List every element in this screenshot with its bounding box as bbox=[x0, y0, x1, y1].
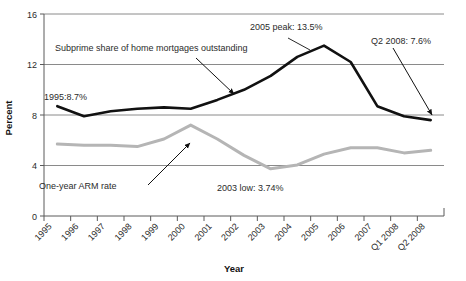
x-tick-labels: 1995199619971998199920002001200220032004… bbox=[33, 221, 428, 252]
x-tick-label-q2-2008: Q2 2008 bbox=[396, 221, 427, 252]
x-tick-label-2002: 2002 bbox=[219, 221, 240, 242]
x-tick-label-2006: 2006 bbox=[326, 221, 347, 242]
x-tick-label-2005: 2005 bbox=[299, 221, 320, 242]
x-tick-label-2004: 2004 bbox=[273, 221, 294, 242]
y-tick-label-12: 12 bbox=[27, 60, 37, 70]
x-axis-title: Year bbox=[224, 263, 244, 274]
peak-2005-label: 2005 peak: 13.5% bbox=[250, 22, 323, 32]
y-tick-label-0: 0 bbox=[32, 212, 37, 222]
x-tick-label-1995: 1995 bbox=[33, 221, 54, 242]
x-tick-label-2001: 2001 bbox=[193, 221, 214, 242]
x-tick-label-1996: 1996 bbox=[59, 221, 80, 242]
end-q2-2008-label: Q2 2008: 7.6% bbox=[371, 36, 431, 46]
arm-series-label: One-year ARM rate bbox=[39, 181, 117, 191]
x-tick-label-2007: 2007 bbox=[353, 221, 374, 242]
x-tick-label-1997: 1997 bbox=[86, 221, 107, 242]
y-tick-label-4: 4 bbox=[32, 161, 37, 171]
x-tick-label-1999: 1999 bbox=[139, 221, 160, 242]
x-ticks bbox=[44, 216, 417, 221]
x-tick-label-1998: 1998 bbox=[113, 221, 134, 242]
x-tick-label-2003: 2003 bbox=[246, 221, 267, 242]
y-tick-label-8: 8 bbox=[32, 111, 37, 121]
subprime-series-label: Subprime share of home mortgages outstan… bbox=[55, 43, 248, 53]
y-tick-label-16: 16 bbox=[27, 10, 37, 20]
low-2003-label: 2003 low: 3.74% bbox=[217, 183, 284, 193]
subprime-vs-arm-line-chart: 0481216 19951996199719981999200020012002… bbox=[0, 0, 466, 281]
start-1995-label: 1995:8.7% bbox=[44, 92, 87, 102]
x-tick-label-2000: 2000 bbox=[166, 221, 187, 242]
chart-container: 0481216 19951996199719981999200020012002… bbox=[0, 0, 466, 281]
y-axis-title: Percent bbox=[3, 100, 14, 136]
x-tick-label-q1-2008: Q1 2008 bbox=[369, 221, 400, 252]
